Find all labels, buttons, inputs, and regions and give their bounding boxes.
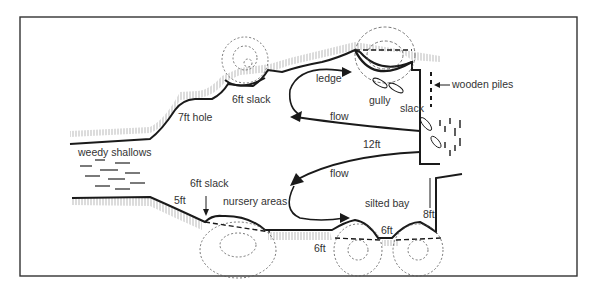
label-6ft-slack-bottom: 6ft slack	[190, 178, 229, 189]
flow-arrow-bottom	[296, 152, 420, 180]
arrowhead-slack-bottom	[203, 209, 209, 216]
label-silted-bay: silted bay	[365, 198, 409, 209]
label-ledge: ledge	[316, 73, 342, 84]
arrowhead-eddy-top	[342, 67, 352, 77]
weed-strokes	[80, 160, 145, 189]
label-nursery-areas: nursery areas	[223, 196, 287, 207]
label-6ft-b: 6ft	[381, 225, 393, 236]
tree-top-left	[222, 37, 268, 83]
label-gully: gully	[369, 95, 391, 106]
label-12ft: 12ft	[363, 139, 381, 150]
label-6ft-a: 6ft	[314, 243, 326, 254]
label-7ft-hole: 7ft hole	[178, 112, 212, 123]
flow-arrow-top	[296, 117, 420, 131]
arrowhead-flow-bottom	[290, 173, 304, 186]
wooden-piles-icon	[430, 72, 432, 107]
reeds-icon	[440, 118, 460, 156]
label-6ft-slack-top: 6ft slack	[232, 94, 271, 105]
top-bank-hatching	[70, 42, 440, 137]
label-5ft: 5ft	[174, 195, 186, 206]
label-slack-top-right: slack	[400, 103, 424, 114]
label-wooden-piles: wooden piles	[452, 79, 513, 90]
tree-bottom-right-dash	[396, 238, 442, 240]
tree-bottom-mid-dash	[335, 238, 380, 240]
eddy-bottom	[289, 186, 345, 220]
swim-diagram: ledge gully slack wooden piles 6ft slack…	[0, 0, 596, 293]
arrowhead-piles	[434, 82, 440, 88]
tree-bottom-mid	[334, 224, 382, 276]
tree-bottom-left	[200, 222, 276, 278]
label-weedy-shallows: weedy shallows	[78, 147, 152, 158]
label-flow-bottom: flow	[330, 168, 349, 179]
label-flow-top: flow	[330, 111, 349, 122]
label-8ft: 8ft	[423, 209, 435, 220]
